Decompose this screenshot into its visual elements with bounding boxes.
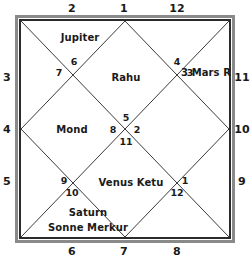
vedic-chart: 2 1 12 3 4 5 11 10 9 6 7 8 6 7 4 3 5 8 2… — [0, 0, 250, 260]
house-number-9: 9 — [61, 176, 68, 186]
outer-sign-top-1: 2 — [68, 3, 76, 14]
planet-jupiter: Jupiter — [61, 33, 100, 43]
outer-sign-top-2: 1 — [120, 3, 128, 14]
outer-sign-bottom-3: 8 — [173, 246, 181, 257]
outer-sign-bottom-2: 7 — [120, 246, 128, 257]
outer-sign-right-1: 11 — [234, 72, 250, 83]
house-number-10: 10 — [65, 188, 78, 198]
outer-sign-right-2: 10 — [234, 124, 250, 135]
planet-mond: Mond — [56, 125, 88, 135]
outer-sign-left-3: 5 — [3, 176, 11, 187]
house-number-1: 1 — [182, 176, 189, 186]
planet-sonne-merkur: Sonne Merkur — [48, 223, 128, 233]
house-number-12: 12 — [170, 188, 183, 198]
house-number-8: 8 — [110, 125, 117, 135]
planet-rahu: Rahu — [111, 73, 140, 83]
outer-sign-top-3: 12 — [169, 3, 185, 14]
outer-sign-left-2: 4 — [3, 124, 11, 135]
outer-sign-bottom-1: 6 — [68, 246, 76, 257]
planet-saturn: Saturn — [69, 208, 108, 218]
outer-sign-right-3: 9 — [238, 176, 246, 187]
planet-venus-ketu: Venus Ketu — [99, 178, 164, 188]
house-number-2: 2 — [134, 125, 141, 135]
chart-diagonal-lines — [21, 21, 229, 237]
house-number-7: 7 — [56, 68, 63, 78]
house-number-5: 5 — [123, 113, 130, 123]
house-number-6: 6 — [71, 57, 78, 67]
house-number-11: 11 — [119, 137, 132, 147]
house-number-4: 4 — [174, 57, 181, 67]
outer-sign-left-1: 3 — [3, 72, 11, 83]
planet-mars: 3 Mars R — [181, 68, 231, 78]
